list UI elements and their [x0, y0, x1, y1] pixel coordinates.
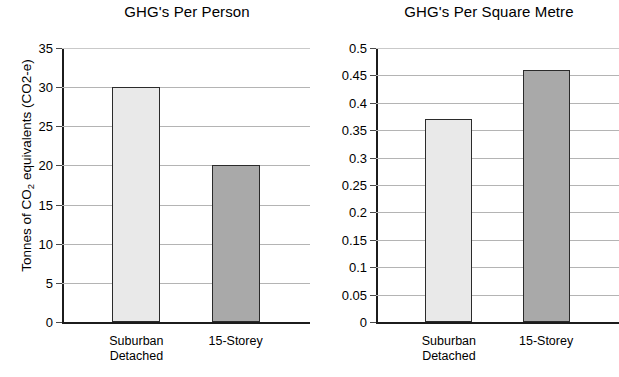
- gridline: [62, 205, 310, 206]
- y-axis-tick-label: 0.25: [342, 179, 367, 192]
- x-axis-line-left: [62, 322, 310, 324]
- y-axis-tick: [370, 240, 376, 241]
- bar-15-storey-left: [212, 165, 260, 322]
- y-axis-tick-label: 15: [39, 198, 53, 211]
- x-category-label-line: 15-Storey: [519, 334, 573, 349]
- y-axis-title-pre: Tonnes of CO: [19, 189, 34, 272]
- y-axis-tick: [370, 130, 376, 131]
- y-axis-tick: [56, 205, 62, 206]
- x-category-label-line: Detached: [422, 349, 476, 364]
- y-axis-tick: [370, 295, 376, 296]
- gridline: [376, 158, 619, 159]
- bar-suburban-detached-right: [425, 119, 472, 322]
- bar-suburban-detached-left: [112, 87, 160, 322]
- gridline: [376, 295, 619, 296]
- y-axis-tick-label: 0.45: [342, 69, 367, 82]
- gridline: [376, 130, 619, 131]
- x-category-label-line: 15-Storey: [208, 334, 262, 349]
- y-axis-tick-label: 0: [46, 316, 53, 329]
- gridline: [62, 283, 310, 284]
- chart-title-left: GHG's Per Person: [0, 3, 316, 20]
- plot-area-left: 05101520253035: [62, 48, 310, 322]
- y-axis-tick: [370, 48, 376, 49]
- gridline: [376, 48, 619, 49]
- x-category-label-line: Suburban: [109, 334, 163, 349]
- y-axis-tick-label: 35: [39, 42, 53, 55]
- y-axis-tick: [370, 103, 376, 104]
- y-axis-tick: [370, 158, 376, 159]
- y-axis-tick: [56, 48, 62, 49]
- y-axis-tick-label: 25: [39, 120, 53, 133]
- gridline: [376, 75, 619, 76]
- bar-15-storey-right: [523, 70, 570, 322]
- y-axis-line-left: [62, 48, 64, 322]
- y-axis-tick: [370, 75, 376, 76]
- y-axis-tick-label: 0.2: [349, 206, 367, 219]
- gridline: [62, 87, 310, 88]
- x-category-label-suburban-detached-left: SuburbanDetached: [109, 334, 163, 364]
- y-axis-tick: [370, 267, 376, 268]
- gridline: [376, 240, 619, 241]
- x-category-label-15-storey-right: 15-Storey: [519, 334, 573, 349]
- y-axis-tick-label: 0.35: [342, 124, 367, 137]
- y-axis-tick: [56, 126, 62, 127]
- gridline: [376, 267, 619, 268]
- y-axis-tick: [56, 322, 62, 323]
- x-category-label-line: Suburban: [422, 334, 476, 349]
- y-axis-tick: [56, 87, 62, 88]
- y-axis-tick: [56, 165, 62, 166]
- gridline: [62, 48, 310, 49]
- y-axis-title-post: equivalents (CO2-e): [19, 59, 34, 184]
- chart-panel-ghg-per-person: GHG's Per Person Tonnes of CO2 equivalen…: [0, 0, 316, 377]
- gridline: [376, 185, 619, 186]
- y-axis-tick: [370, 212, 376, 213]
- x-category-label-15-storey-left: 15-Storey: [208, 334, 262, 349]
- plot-area-right: 00.050.10.150.20.250.30.350.40.450.5: [376, 48, 619, 322]
- y-axis-tick-label: 0: [360, 316, 367, 329]
- y-axis-tick-label: 0.5: [349, 42, 367, 55]
- y-axis-tick-label: 5: [46, 276, 53, 289]
- x-category-label-line: Detached: [109, 349, 163, 364]
- x-category-label-suburban-detached-right: SuburbanDetached: [422, 334, 476, 364]
- y-axis-title-subscript: 2: [24, 184, 35, 189]
- gridline: [62, 165, 310, 166]
- gridline: [376, 103, 619, 104]
- y-axis-tick: [370, 322, 376, 323]
- y-axis-tick-label: 0.15: [342, 233, 367, 246]
- y-axis-tick-label: 30: [39, 81, 53, 94]
- y-axis-tick-label: 0.1: [349, 261, 367, 274]
- y-axis-tick-label: 0.3: [349, 151, 367, 164]
- chart-panel-ghg-per-square-metre: GHG's Per Square Metre 00.050.10.150.20.…: [316, 0, 614, 377]
- chart-title-right: GHG's Per Square Metre: [316, 3, 614, 20]
- x-axis-line-right: [376, 322, 619, 324]
- y-axis-tick-label: 20: [39, 159, 53, 172]
- y-axis-tick-label: 0.4: [349, 96, 367, 109]
- gridline: [376, 212, 619, 213]
- y-axis-tick-label: 0.05: [342, 288, 367, 301]
- gridline: [62, 244, 310, 245]
- y-axis-tick-label: 10: [39, 237, 53, 250]
- gridline: [62, 126, 310, 127]
- y-axis-tick: [370, 185, 376, 186]
- y-axis-title-left: Tonnes of CO2 equivalents (CO2-e): [19, 36, 34, 296]
- y-axis-tick: [56, 283, 62, 284]
- y-axis-tick: [56, 244, 62, 245]
